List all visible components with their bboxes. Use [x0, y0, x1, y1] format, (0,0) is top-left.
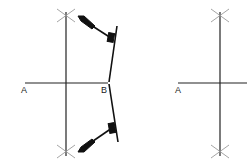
construction-diagram: A B A	[0, 0, 247, 166]
right-panel: A	[175, 9, 247, 158]
label-point-a-right: A	[175, 85, 181, 95]
label-point-a: A	[21, 85, 27, 95]
compass-icon-top	[78, 16, 117, 82]
compass-icon-bottom	[78, 84, 118, 152]
left-panel: A B	[21, 9, 118, 158]
label-point-b: B	[101, 85, 107, 95]
